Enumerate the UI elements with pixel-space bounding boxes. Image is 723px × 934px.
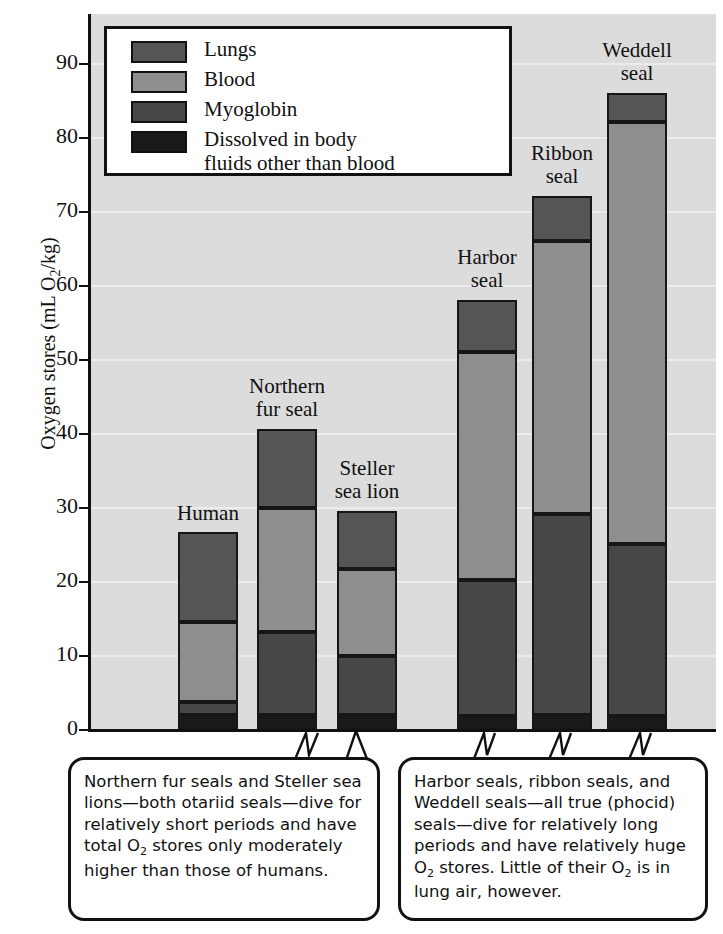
bar-segment-blood[interactable] [532,241,592,515]
bar-weddell-seal[interactable]: Weddell seal [607,93,667,729]
bar-segment-lungs[interactable] [337,511,397,569]
callout-right-line-6: lung air, however. [414,881,692,902]
callout-right-line-3: seals—dive for relatively long [414,814,692,835]
callout-right-line-5: O2 stores. Little of their O2 is in [414,857,692,882]
legend-item-blood: Blood [131,68,509,93]
callout-otariid-seals: Northern fur seals and Steller sea lions… [68,757,380,921]
bar-segment-myoglobin[interactable] [337,656,397,715]
callout-right-line-1: Harbor seals, ribbon seals, and [414,771,692,792]
legend-item-label: Dissolved in body fluids other than bloo… [204,128,395,175]
legend-item-label: Myoglobin [204,98,297,122]
bar-segment-lungs[interactable] [607,93,667,123]
callout-phocid-seals: Harbor seals, ribbon seals, and Weddell … [398,757,708,921]
callout-left-line-5: higher than those of humans. [84,860,364,881]
callout-left-line-2: lions—both otariid seals—dive for [84,792,364,813]
bar-segment-myoglobin[interactable] [257,632,317,715]
callout-left-line-4: total O2 stores only moderately [84,835,364,860]
bar-segment-blood[interactable] [178,622,238,701]
chart-legend: LungsBloodMyoglobinDissolved in body flu… [104,26,512,176]
callout-left-line-3: relatively short periods and have [84,814,364,835]
bar-segment-blood[interactable] [457,352,517,580]
bar-segment-myoglobin[interactable] [532,514,592,715]
bar-segment-blood[interactable] [607,122,667,544]
oxygen-stores-stacked-bar-chart: 9080706050403020100 Oxygen stores (mL O2… [0,0,723,934]
legend-item-label: Blood [204,68,255,92]
bar-ribbon-seal[interactable]: Ribbon seal [532,196,592,729]
legend-item-myoglobin: Myoglobin [131,98,509,123]
callout-left-line-1: Northern fur seals and Steller sea [84,771,364,792]
legend-swatch-icon [131,131,187,153]
bar-segment-lungs[interactable] [457,300,517,352]
callout-right-line-4: periods and have relatively huge [414,835,692,856]
legend-item-label: Lungs [204,38,257,62]
bar-human[interactable]: Human [178,532,238,729]
callout-right-line-2: Weddell seals—all true (phocid) [414,792,692,813]
bar-segment-myoglobin[interactable] [178,702,238,715]
bar-segment-lungs[interactable] [532,196,592,240]
bar-segment-myoglobin[interactable] [457,580,517,716]
legend-swatch-icon [131,101,187,123]
legend-swatch-icon [131,41,187,63]
legend-item-lungs: Lungs [131,38,509,63]
bar-segment-lungs[interactable] [178,532,238,622]
bar-harbor-seal[interactable]: Harbor seal [457,300,517,729]
bar-segment-myoglobin[interactable] [607,544,667,716]
legend-swatch-icon [131,71,187,93]
bar-steller-sea-lion[interactable]: Steller sea lion [337,511,397,729]
bar-label-northern-fur-seal: Northern fur seal [212,375,362,421]
bar-segment-blood[interactable] [337,569,397,656]
bar-label-steller-sea-lion: Steller sea lion [292,457,442,503]
legend-item-dissolved-in-body: Dissolved in body fluids other than bloo… [131,128,509,175]
bar-label-weddell-seal: Weddell seal [562,39,712,85]
bar-segment-blood[interactable] [257,508,317,632]
